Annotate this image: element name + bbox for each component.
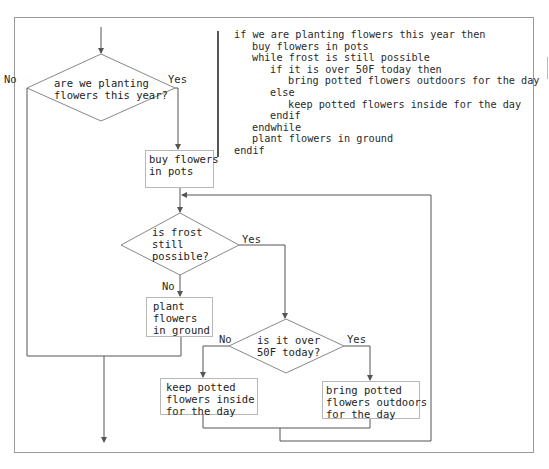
decision-frost-yes-label: Yes [242, 233, 261, 245]
code-line: while frost is still possible [234, 52, 539, 64]
decision-temp-text: is it over 50F today? [257, 334, 320, 358]
decision-frost-no-label: No [162, 280, 175, 292]
process-plant-flowers: plant flowers in ground [146, 297, 213, 337]
process-buy-flowers: buy flowers in pots [145, 150, 214, 188]
code-line: if we are planting flowers this year the… [234, 29, 539, 41]
decision-planting-yes-label: Yes [168, 73, 187, 85]
pseudocode-block: if we are planting flowers this year the… [234, 29, 539, 157]
code-divider-bar [217, 31, 219, 157]
decision-temp-yes-label: Yes [347, 333, 366, 345]
process-bring-outdoors: bring potted flowers outdoors for the da… [322, 381, 420, 419]
code-line: if it is over 50F today then [234, 64, 539, 76]
decision-frost-text: is frost still possible? [152, 226, 209, 262]
code-line: endwhile [234, 122, 539, 134]
code-line: bring potted flowers outdoors for the da… [234, 75, 539, 87]
decision-temp-no-label: No [219, 333, 232, 345]
decision-planting-text: are we planting flowers this year? [54, 77, 168, 101]
code-line: keep potted flowers inside for the day [234, 99, 539, 111]
process-keep-inside: keep potted flowers inside for the day [160, 378, 258, 415]
code-line: endif [234, 110, 539, 122]
code-line: plant flowers in ground [234, 133, 539, 145]
decision-planting-no-label: No [4, 73, 17, 85]
code-line: endif [234, 145, 539, 157]
code-line: else [234, 87, 539, 99]
code-line: buy flowers in pots [234, 41, 539, 53]
